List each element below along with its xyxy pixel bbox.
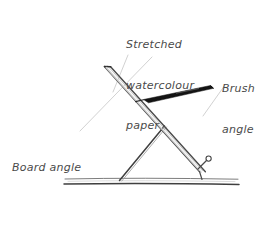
label-stretched-watercolour-paper: Stretched watercolour paper <box>126 11 194 160</box>
label-paper-line1: Stretched <box>126 38 194 52</box>
label-brush-line2: angle <box>222 123 255 137</box>
label-brush-line1: Brush <box>222 82 255 96</box>
label-board-angle: Board angle <box>12 134 81 202</box>
label-board-line1: Board angle <box>12 161 81 175</box>
board-stop-knob <box>206 156 211 161</box>
table-top-line-hairline <box>68 181 235 182</box>
label-paper-line2: watercolour <box>126 79 194 93</box>
board-stop <box>198 156 211 180</box>
table-top-line-upper <box>65 178 238 179</box>
label-table-top: Table top <box>110 203 163 228</box>
label-paper-line3: paper <box>126 119 194 133</box>
table-top-line-lower <box>64 183 239 184</box>
diagram-canvas: Stretched watercolour paper Brush angle … <box>0 0 277 228</box>
table-surface <box>64 178 239 184</box>
label-brush-angle: Brush angle <box>222 55 255 163</box>
